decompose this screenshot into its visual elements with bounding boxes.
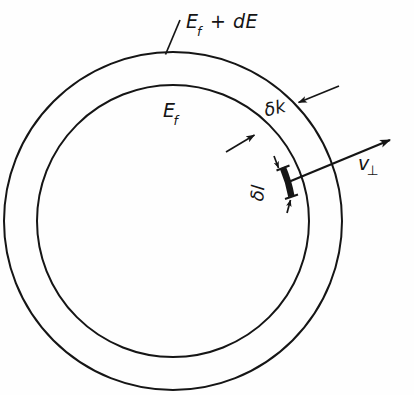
diagram-canvas	[0, 0, 414, 395]
delta-k-arrow-outer	[299, 86, 340, 103]
fermi-surface-diagram: Ef + dE Ef δk δl v⊥	[0, 0, 414, 395]
delta-l-arrow-bottom	[287, 200, 291, 213]
arc-length-label: δl	[246, 184, 269, 202]
inner-circle	[37, 85, 309, 357]
outer-energy-subscript: f	[197, 24, 202, 39]
outer-circle-energy-label: Ef + dE	[186, 10, 258, 36]
inner-circle-energy-label: Ef	[163, 99, 179, 125]
delta-l-arrow-top	[274, 156, 279, 168]
outer-energy-increment: + dE	[203, 10, 258, 32]
perpendicular-subscript: ⊥	[367, 162, 379, 178]
ef-plus-de-leader-line	[166, 20, 181, 55]
delta-k-arrow-inner	[226, 135, 255, 152]
velocity-label: v⊥	[358, 152, 381, 174]
inner-energy-subscript: f	[174, 113, 178, 128]
